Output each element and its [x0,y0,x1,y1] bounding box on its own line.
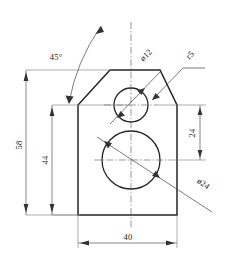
angle-arc-leader [69,26,101,103]
arrow-40-right [166,241,175,246]
dim-label-58: 58 [14,141,24,150]
arrow-44-top [50,107,55,116]
arrow-phi12-lower [117,111,125,118]
arrow-angle-bottom [66,96,74,105]
engineering-drawing-canvas: 58 44 24 40 45° ø12 r5 ø24 [0,0,227,265]
dim-label-45deg: 45° [50,52,63,62]
dim-label-44: 44 [40,155,50,164]
arrow-44-bottom [50,204,55,213]
arrow-58-top [24,72,29,81]
dim-label-r5: r5 [184,49,196,61]
dim-label-phi24: ø24 [195,176,212,192]
dim-label-phi12: ø12 [138,47,155,64]
arrow-40-left [80,241,89,246]
arrow-24-bottom [198,150,203,158]
leader-line-phi12 [110,72,160,124]
arrow-24-top [198,107,203,115]
arrow-phi24-lower [152,171,160,179]
arrow-58-bottom [24,204,29,213]
dim-label-24: 24 [187,128,197,137]
dim-label-40: 40 [124,232,133,242]
part-outline [78,70,177,215]
leader-line-r5 [152,68,205,100]
arrow-r5 [152,93,160,100]
